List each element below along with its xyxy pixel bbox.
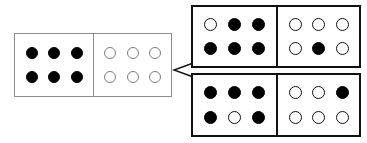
pip-row bbox=[15, 71, 93, 83]
pip-row bbox=[278, 111, 359, 124]
pip-open-icon bbox=[204, 18, 217, 31]
pip-filled-icon bbox=[252, 18, 265, 31]
pip-row bbox=[94, 71, 171, 83]
source-domino[interactable] bbox=[14, 33, 172, 97]
pip-open-icon bbox=[312, 18, 325, 31]
pip-filled-icon bbox=[48, 71, 60, 83]
option-bottom-left-half bbox=[193, 75, 276, 135]
pip-filled-icon bbox=[26, 47, 38, 59]
option-top-right-half bbox=[276, 7, 359, 66]
pip-open-icon bbox=[289, 18, 302, 31]
pip-row bbox=[278, 42, 359, 55]
pip-row bbox=[15, 47, 93, 59]
pip-open-icon bbox=[289, 111, 302, 124]
pip-open-icon bbox=[312, 86, 325, 99]
pip-open-icon bbox=[104, 71, 116, 83]
pip-filled-icon bbox=[336, 86, 349, 99]
source-left-half bbox=[15, 34, 93, 96]
pip-filled-icon bbox=[48, 47, 60, 59]
source-right-half bbox=[93, 34, 171, 96]
option-top-left-half bbox=[193, 7, 276, 66]
pip-filled-icon bbox=[204, 86, 217, 99]
pip-open-icon bbox=[336, 18, 349, 31]
option-bottom-right-half bbox=[276, 75, 359, 135]
pip-filled-icon bbox=[252, 42, 265, 55]
pip-open-icon bbox=[149, 47, 161, 59]
pip-filled-icon bbox=[204, 42, 217, 55]
pip-row bbox=[278, 86, 359, 99]
pip-filled-icon bbox=[228, 86, 241, 99]
pip-open-icon bbox=[336, 111, 349, 124]
pip-filled-icon bbox=[228, 42, 241, 55]
pip-filled-icon bbox=[71, 47, 83, 59]
pip-open-icon bbox=[127, 71, 139, 83]
pip-row bbox=[193, 111, 276, 124]
pip-row bbox=[94, 47, 171, 59]
pip-filled-icon bbox=[252, 111, 265, 124]
pip-row bbox=[193, 18, 276, 31]
pip-filled-icon bbox=[204, 111, 217, 124]
pip-open-icon bbox=[127, 47, 139, 59]
pip-filled-icon bbox=[252, 86, 265, 99]
pip-row bbox=[193, 86, 276, 99]
domino-figure bbox=[0, 0, 367, 143]
pip-filled-icon bbox=[228, 18, 241, 31]
pip-filled-icon bbox=[71, 71, 83, 83]
pip-open-icon bbox=[228, 111, 241, 124]
pip-open-icon bbox=[336, 42, 349, 55]
pip-open-icon bbox=[289, 42, 302, 55]
pip-open-icon bbox=[104, 47, 116, 59]
pip-filled-icon bbox=[312, 42, 325, 55]
pip-row bbox=[193, 42, 276, 55]
pip-row bbox=[278, 18, 359, 31]
pip-filled-icon bbox=[26, 71, 38, 83]
pip-open-icon bbox=[149, 71, 161, 83]
option-domino-bottom[interactable] bbox=[191, 73, 361, 137]
pip-open-icon bbox=[289, 86, 302, 99]
pip-open-icon bbox=[312, 111, 325, 124]
option-domino-top[interactable] bbox=[191, 5, 361, 68]
